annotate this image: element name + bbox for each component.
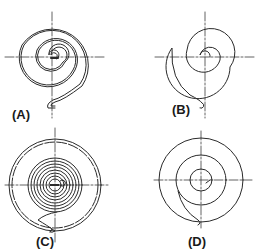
panel-a-spring [5, 12, 104, 118]
panel-d-label: (D) [188, 234, 206, 249]
panel-b-centerlines [155, 12, 254, 118]
spiral-spring-diagram [0, 0, 256, 252]
panel-b-label: (B) [172, 102, 190, 117]
panel-b-spring [155, 12, 254, 118]
panel-c-spring [5, 128, 108, 244]
panel-d-centerlines [154, 131, 252, 228]
panel-d-spring [154, 131, 252, 228]
panel-c-label: (C) [36, 234, 54, 249]
panel-a-label: (A) [12, 107, 30, 122]
